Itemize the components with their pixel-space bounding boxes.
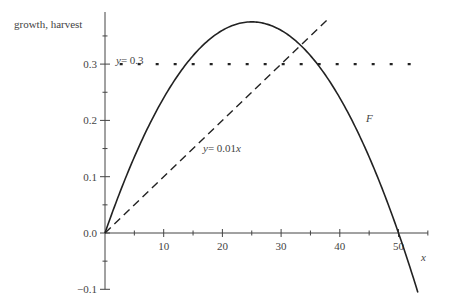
x-tick-label: 40: [334, 240, 346, 252]
y-tick-label: 0.1: [83, 171, 97, 183]
x-axis-label: x: [420, 251, 426, 263]
y-tick-label: 0.0: [83, 227, 97, 239]
x-tick-label: 10: [158, 240, 170, 252]
line-proportional-harvest: [105, 19, 328, 233]
y-tick-label: 0.3: [83, 58, 97, 70]
x-tick-label: 20: [217, 240, 229, 252]
curve-F: [105, 22, 418, 293]
x-tick-label: 30: [276, 240, 288, 252]
series: [105, 19, 418, 292]
axes: [100, 12, 428, 289]
y-tick-label: 0.2: [83, 114, 97, 126]
annotation-y-0.3: y= 0.3: [115, 54, 144, 66]
y-axis-label: growth, harvest: [14, 18, 82, 30]
y-tick-label: −0.1: [77, 283, 97, 295]
annotation-F: F: [365, 112, 373, 124]
chart: 1020304050−0.10.00.10.20.3 growth, harve…: [0, 0, 450, 306]
annotation-y-0.01x: y= 0.01x: [202, 142, 241, 154]
